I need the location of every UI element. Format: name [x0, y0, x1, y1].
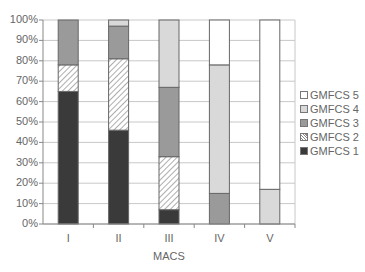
bar-segment	[209, 20, 229, 65]
y-tick-label: 70%	[0, 74, 38, 86]
legend-item: GMFCS 2	[300, 130, 359, 144]
x-axis-label: MACS	[139, 250, 199, 262]
x-tick-label: III	[154, 232, 184, 244]
bar-segment	[109, 26, 129, 59]
x-tick-label: IV	[204, 232, 234, 244]
x-tick-label: I	[53, 232, 83, 244]
y-tick-label: 20%	[0, 176, 38, 188]
y-tick-label: 30%	[0, 156, 38, 168]
bar-segment	[159, 157, 179, 210]
legend-swatch-icon	[300, 105, 308, 113]
legend-swatch-icon	[300, 133, 308, 141]
bar-segment	[58, 65, 78, 92]
legend-label: GMFCS 4	[310, 103, 359, 115]
bar-segment	[159, 20, 179, 87]
bar-segment	[109, 20, 129, 26]
bar-segment	[260, 20, 280, 189]
legend-label: GMFCS 2	[310, 131, 359, 143]
y-tick-label: 0%	[0, 217, 38, 229]
bar-segment	[209, 65, 229, 194]
legend-label: GMFCS 5	[310, 89, 359, 101]
legend-item: GMFCS 1	[300, 144, 359, 158]
x-tick-label: V	[255, 232, 285, 244]
stacked-bar-chart: 0%10%20%30%40%50%60%70%80%90%100% IIIIII…	[0, 0, 365, 272]
y-tick-label: 60%	[0, 95, 38, 107]
y-tick-label: 10%	[0, 197, 38, 209]
legend: GMFCS 5GMFCS 4GMFCS 3GMFCS 2GMFCS 1	[300, 88, 359, 158]
bar-segment	[58, 20, 78, 65]
y-tick-label: 100%	[0, 13, 38, 25]
bar-segment	[109, 59, 129, 130]
y-tick-label: 50%	[0, 115, 38, 127]
legend-item: GMFCS 5	[300, 88, 359, 102]
bar-segment	[159, 210, 179, 224]
bar-segment	[109, 130, 129, 224]
legend-swatch-icon	[300, 119, 308, 127]
legend-label: GMFCS 1	[310, 145, 359, 157]
y-tick-label: 40%	[0, 135, 38, 147]
bar-segment	[260, 189, 280, 224]
y-tick-label: 80%	[0, 54, 38, 66]
bar-segment	[58, 91, 78, 224]
legend-swatch-icon	[300, 91, 308, 99]
bar-segment	[209, 193, 229, 224]
legend-swatch-icon	[300, 147, 308, 155]
legend-label: GMFCS 3	[310, 117, 359, 129]
legend-item: GMFCS 3	[300, 116, 359, 130]
y-tick-label: 90%	[0, 33, 38, 45]
legend-item: GMFCS 4	[300, 102, 359, 116]
bar-segment	[159, 87, 179, 156]
x-tick-label: II	[104, 232, 134, 244]
